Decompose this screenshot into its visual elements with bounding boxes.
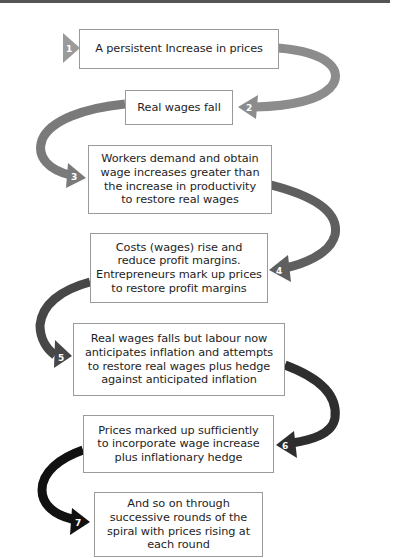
svg-text:6: 6 — [282, 441, 288, 451]
step-1-text: A persistent Increase in prices — [95, 42, 263, 56]
svg-text:3: 3 — [71, 172, 77, 182]
arrow-1-icon: 1 — [63, 33, 80, 63]
step-6-box: Prices marked up sufficiently to incorpo… — [83, 415, 274, 473]
svg-text:7: 7 — [75, 518, 81, 528]
step-4-box: Costs (wages) rise and reduce profit mar… — [90, 233, 268, 303]
step-5-box: Real wages falls but labour now anticipa… — [73, 323, 285, 396]
step-7-text: And so on through successive rounds of t… — [107, 497, 250, 551]
arrow-4-icon: 4 — [269, 185, 336, 282]
step-4-text: Costs (wages) rise and reduce profit mar… — [96, 241, 262, 295]
step-5-text: Real wages falls but labour now anticipa… — [85, 332, 273, 386]
step-3-text: Workers demand and obtain wage increases… — [101, 152, 260, 206]
step-3-box: Workers demand and obtain wage increases… — [88, 145, 272, 214]
step-7-box: And so on through successive rounds of t… — [94, 492, 263, 557]
svg-text:5: 5 — [58, 353, 64, 363]
svg-text:4: 4 — [276, 266, 282, 276]
step-1-box: A persistent Increase in prices — [79, 29, 279, 69]
svg-text:2: 2 — [246, 103, 252, 113]
step-2-box: Real wages fall — [125, 90, 233, 125]
step-6-text: Prices marked up sufficiently to incorpo… — [97, 424, 259, 465]
svg-text:1: 1 — [66, 44, 72, 54]
step-2-text: Real wages fall — [137, 101, 220, 115]
